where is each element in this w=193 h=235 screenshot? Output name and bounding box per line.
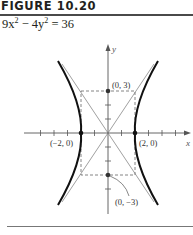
label-left-vertex: (−2, 0) <box>50 138 73 148</box>
leader-line <box>110 176 129 196</box>
hyperbola-plot: y x (0, 3) (−2, 0) (2, 0) (0, −3) <box>0 0 193 235</box>
label-right-vertex: (2, 0) <box>139 138 158 148</box>
label-top-point: (0, 3) <box>112 80 131 90</box>
label-bottom-point: (0, −3) <box>115 197 138 207</box>
point-bottom <box>106 173 111 178</box>
y-axis-label: y <box>111 44 116 54</box>
x-axis-arrow-icon <box>184 131 191 136</box>
vertex-right <box>133 131 138 136</box>
vertex-left <box>79 131 84 136</box>
y-axis <box>105 44 111 214</box>
footer-rule <box>7 226 193 227</box>
y-axis-arrow-icon <box>106 44 111 51</box>
point-top <box>106 89 111 94</box>
x-axis-label: x <box>185 138 190 148</box>
x-axis <box>24 130 191 136</box>
